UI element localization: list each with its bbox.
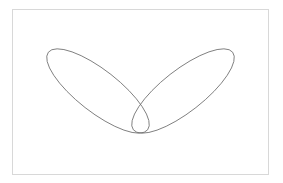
left-ellipse — [35, 36, 160, 147]
right-ellipse — [120, 36, 245, 147]
diagram-canvas — [0, 0, 283, 183]
